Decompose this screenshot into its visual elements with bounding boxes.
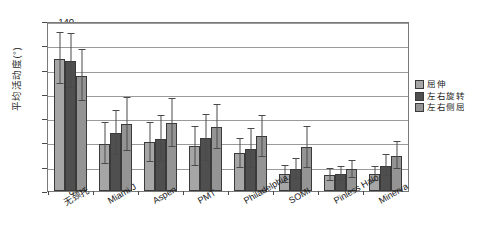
error-bar-cap-bottom <box>303 167 310 168</box>
bar[interactable] <box>290 169 301 191</box>
error-bar-cap-bottom <box>78 100 85 101</box>
bar[interactable] <box>211 127 222 191</box>
error-bar-cap-bottom <box>258 156 265 157</box>
bar[interactable] <box>144 142 155 191</box>
error-bar-cap-bottom <box>56 83 63 84</box>
error-bar-cap-top <box>292 158 299 159</box>
error-bar-cap-bottom <box>337 180 344 181</box>
error-bar-cap-bottom <box>326 180 333 181</box>
error-bar-cap-bottom <box>382 175 389 176</box>
bar[interactable] <box>324 175 335 191</box>
error-bar <box>104 123 105 164</box>
chart-root: 平均活动度(°) 020406080100120140 无颈托Miami JAs… <box>0 0 487 244</box>
error-bar <box>126 98 127 151</box>
error-bar-cap-bottom <box>236 167 243 168</box>
error-bar-cap-top <box>258 115 265 116</box>
bar-group <box>183 23 228 191</box>
error-bar <box>160 116 161 162</box>
legend-item[interactable]: 左右旋转 <box>415 91 465 103</box>
error-bar-cap-bottom <box>202 160 209 161</box>
error-bar <box>149 123 150 162</box>
error-bar-cap-top <box>157 115 164 116</box>
error-bar-cap-bottom <box>101 163 108 164</box>
error-bar-cap-bottom <box>348 177 355 178</box>
legend-swatch-icon <box>415 80 424 89</box>
error-bar <box>70 34 71 87</box>
bar[interactable] <box>245 149 256 192</box>
error-bar <box>115 111 116 155</box>
error-bar-cap-bottom <box>213 148 220 149</box>
bar-group <box>363 23 408 191</box>
error-bar <box>59 33 60 84</box>
bar[interactable] <box>121 124 132 191</box>
error-bar-cap-top <box>146 122 153 123</box>
error-bar <box>340 167 341 182</box>
error-bar-cap-top <box>281 165 288 166</box>
legend-label: 左右侧屈 <box>427 102 465 114</box>
error-bar-cap-bottom <box>393 168 400 169</box>
error-bar-cap-bottom <box>112 154 119 155</box>
bar[interactable] <box>110 133 121 191</box>
error-bar <box>250 129 251 168</box>
plot-area <box>47 22 409 192</box>
error-bar <box>396 142 397 169</box>
bar-group <box>138 23 183 191</box>
bar[interactable] <box>155 139 166 191</box>
bar[interactable] <box>76 76 87 191</box>
error-bar-cap-bottom <box>292 178 299 179</box>
error-bar-cap-top <box>202 114 209 115</box>
error-bar-cap-top <box>213 104 220 105</box>
bar-group <box>48 23 93 191</box>
bar-group <box>93 23 138 191</box>
bar[interactable] <box>189 146 200 191</box>
bar[interactable] <box>65 61 76 191</box>
error-bar <box>261 116 262 157</box>
error-bar-cap-bottom <box>157 161 164 162</box>
bar[interactable] <box>200 138 211 191</box>
legend-item[interactable]: 左右侧屈 <box>415 102 465 114</box>
error-bar-cap-top <box>303 126 310 127</box>
error-bar-cap-bottom <box>247 167 254 168</box>
legend-swatch-icon <box>415 103 424 112</box>
chart-legend: 屈伸左右旋转左右侧屈 <box>415 79 465 114</box>
legend-label: 屈伸 <box>427 79 446 91</box>
error-bar-cap-top <box>168 98 175 99</box>
y-axis-title: 平均活动度(°) <box>9 19 23 139</box>
legend-item[interactable]: 屈伸 <box>415 79 465 91</box>
bar[interactable] <box>380 166 391 192</box>
error-bar <box>239 139 240 168</box>
error-bar <box>205 115 206 161</box>
bar-group <box>228 23 273 191</box>
bar-group <box>273 23 318 191</box>
error-bar-cap-top <box>236 138 243 139</box>
bar[interactable] <box>234 153 245 191</box>
bar-groups <box>48 23 408 191</box>
error-bar-cap-top <box>67 33 74 34</box>
error-bar <box>194 127 195 166</box>
error-bar-cap-bottom <box>146 161 153 162</box>
error-bar <box>81 50 82 101</box>
error-bar-cap-top <box>56 32 63 33</box>
error-bar <box>295 159 296 178</box>
x-axis-tick-labels: 无颈托Miami JAspenPMTPhiladelphiaSOMIPinles… <box>47 193 409 243</box>
error-bar-cap-top <box>393 141 400 142</box>
bar[interactable] <box>99 144 110 191</box>
error-bar-cap-bottom <box>168 146 175 147</box>
bar[interactable] <box>54 59 65 191</box>
error-bar-cap-top <box>371 166 378 167</box>
error-bar-cap-top <box>112 110 119 111</box>
error-bar-cap-top <box>247 128 254 129</box>
legend-swatch-icon <box>415 92 424 101</box>
bar-group <box>318 23 363 191</box>
error-bar <box>216 105 217 149</box>
bar[interactable] <box>166 123 177 191</box>
error-bar-cap-top <box>191 126 198 127</box>
error-bar <box>171 99 172 148</box>
error-bar-cap-top <box>348 160 355 161</box>
error-bar-cap-top <box>78 49 85 50</box>
error-bar <box>351 161 352 178</box>
error-bar-cap-top <box>326 168 333 169</box>
error-bar-cap-top <box>123 97 130 98</box>
error-bar-cap-top <box>337 166 344 167</box>
error-bar-cap-top <box>382 154 389 155</box>
